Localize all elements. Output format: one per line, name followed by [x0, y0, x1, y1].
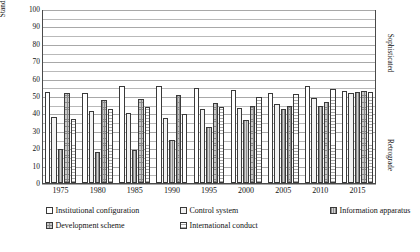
bar-group	[153, 10, 190, 183]
y-tick-label: 80	[18, 41, 40, 48]
bar	[89, 111, 94, 183]
x-tick-label: 1980	[79, 186, 116, 195]
bar-group	[339, 10, 376, 183]
bar	[156, 86, 161, 183]
x-tick-label: 2000	[228, 186, 265, 195]
bar	[256, 97, 261, 183]
bar	[182, 114, 187, 183]
bar	[305, 86, 310, 183]
bar	[231, 90, 236, 183]
bar	[200, 109, 205, 183]
y-axis-title: Standardized score	[0, 0, 7, 44]
bar	[368, 92, 373, 183]
bar	[287, 106, 292, 183]
annotation-retrograde: Retrograde	[386, 120, 394, 190]
x-tick-label: 2010	[302, 186, 339, 195]
legend-label: International conduct	[190, 221, 258, 230]
bar-group	[228, 10, 265, 183]
x-tick-label: 1985	[116, 186, 153, 195]
bar	[281, 109, 286, 183]
bar	[250, 106, 255, 183]
x-axis-line	[42, 183, 376, 184]
y-tick-label: 100	[18, 6, 40, 13]
y-tick-label: 50	[18, 93, 40, 100]
bar	[219, 107, 224, 183]
x-tick-label: 2015	[339, 186, 376, 195]
bar-group	[190, 10, 227, 183]
annotation-sophisticated: Sophisticated	[386, 18, 394, 88]
bar-group	[265, 10, 302, 183]
bar	[330, 89, 335, 183]
y-tick-label: 70	[18, 58, 40, 65]
bar	[138, 99, 143, 183]
plot-axes	[42, 10, 376, 184]
legend-item: Institutional configuration	[46, 203, 180, 218]
x-axis-tick-labels: 197519801985199019952000200520102015	[42, 186, 376, 195]
bar	[176, 95, 181, 183]
x-tick-label: 1990	[153, 186, 190, 195]
bar-groups	[42, 10, 376, 183]
bar-group	[116, 10, 153, 183]
bar	[324, 102, 329, 183]
bar	[355, 92, 360, 183]
legend-item: International conduct	[180, 218, 330, 233]
legend-item: Information apparatus	[330, 203, 406, 218]
bar	[169, 140, 174, 183]
bar	[213, 103, 218, 183]
legend-swatch-icon	[180, 222, 187, 229]
y-axis-tick-labels: 0102030405060708090100	[14, 0, 40, 200]
legend-item: Control system	[180, 203, 330, 218]
legend-label: Information apparatus	[340, 206, 411, 215]
bar	[101, 100, 106, 183]
y-tick-label: 90	[18, 23, 40, 30]
bar	[58, 149, 63, 183]
bar	[348, 93, 353, 183]
y-tick-label: 20	[18, 145, 40, 152]
bar	[71, 119, 76, 183]
legend-swatch-icon	[330, 207, 337, 214]
bar	[163, 118, 168, 183]
x-tick-label: 1995	[190, 186, 227, 195]
legend-label: Development scheme	[56, 221, 125, 230]
legend-label: Control system	[190, 206, 239, 215]
bar	[361, 91, 366, 183]
bar	[51, 117, 56, 183]
legend-swatch-icon	[180, 207, 187, 214]
y-tick-label: 30	[18, 128, 40, 135]
legend-swatch-icon	[46, 222, 53, 229]
y-tick-label: 0	[18, 180, 40, 187]
chart-figure: Standardized score 010203040506070809010…	[0, 0, 420, 252]
plot-area: Standardized score 010203040506070809010…	[0, 0, 420, 200]
bar	[194, 88, 199, 183]
bar	[268, 93, 273, 183]
y-tick-label: 60	[18, 76, 40, 83]
y-tick-label: 40	[18, 110, 40, 117]
bar	[342, 91, 347, 183]
bar-group	[79, 10, 116, 183]
bar	[206, 127, 211, 183]
bar-group	[302, 10, 339, 183]
x-tick-label: 1975	[42, 186, 79, 195]
bar	[119, 86, 124, 183]
legend-swatch-icon	[46, 207, 53, 214]
bar	[293, 94, 298, 183]
legend-label: Institutional configuration	[56, 206, 140, 215]
bar	[82, 93, 87, 183]
bar	[318, 106, 323, 183]
bar	[64, 93, 69, 183]
bar	[311, 98, 316, 183]
bar	[243, 120, 248, 183]
bar-group	[42, 10, 79, 183]
bar	[237, 108, 242, 183]
bar	[45, 92, 50, 183]
gridline	[42, 184, 376, 185]
legend-item: Development scheme	[46, 218, 180, 233]
bar	[126, 113, 131, 183]
bar	[132, 150, 137, 183]
bar	[95, 152, 100, 183]
y-tick-label: 10	[18, 163, 40, 170]
bar	[145, 107, 150, 183]
bar	[274, 104, 279, 183]
x-tick-label: 2005	[265, 186, 302, 195]
chart-legend: Institutional configurationControl syste…	[46, 203, 406, 249]
